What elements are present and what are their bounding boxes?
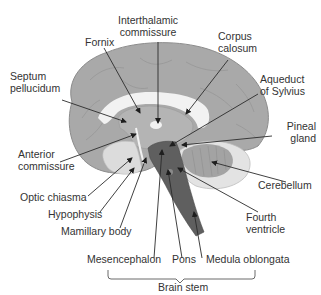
label-line: Corpus (218, 30, 257, 42)
label-mesencephalon: Mesencephalon (87, 253, 161, 265)
interthalamic-commissure (150, 121, 162, 129)
label-line: Anterior (18, 148, 75, 160)
label-line: Aqueduct (260, 73, 305, 85)
label-mamillary-body: Mamillary body (61, 225, 132, 237)
label-interthalamic-commissure: Interthalamic commissure (118, 14, 178, 38)
label-pons: Pons (172, 253, 196, 265)
label-line: Septum (10, 70, 60, 82)
label-line: pellucidum (10, 82, 60, 94)
label-hypophysis: Hypophysis (48, 208, 102, 220)
label-brain-stem: Brain stem (158, 281, 208, 293)
label-line: commissure (18, 160, 75, 172)
label-line: gland (276, 132, 316, 144)
label-line: Fourth (246, 211, 285, 223)
label-aqueduct-of-sylvius: Aqueduct of Sylvius (260, 73, 305, 97)
label-line: ventricle (246, 223, 285, 235)
label-optic-chiasma: Optic chiasma (20, 191, 87, 203)
label-anterior-commissure: Anterior commissure (18, 148, 75, 172)
label-line: Interthalamic (118, 14, 178, 26)
label-fornix: Fornix (85, 36, 114, 48)
label-corpus-callosum: Corpus calosum (218, 30, 257, 54)
label-pineal-gland: Pineal gland (276, 120, 316, 144)
label-line: calosum (218, 42, 257, 54)
label-line: commissure (118, 26, 178, 38)
label-line: of Sylvius (260, 85, 305, 97)
label-septum-pellucidum: Septum pellucidum (10, 70, 60, 94)
label-medula-oblongata: Medula oblongata (206, 253, 289, 265)
label-cerebellum: Cerebellum (258, 179, 312, 191)
label-line: Pineal (276, 120, 316, 132)
label-fourth-ventricle: Fourth ventricle (246, 211, 285, 235)
